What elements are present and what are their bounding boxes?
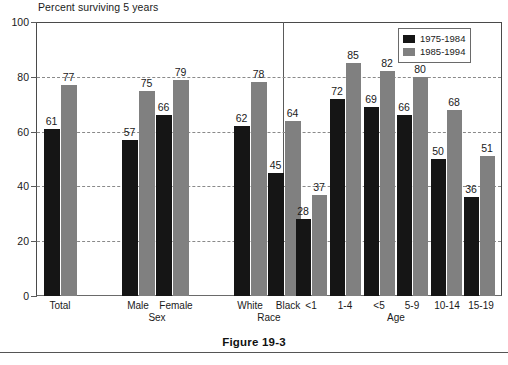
bar-10-14-1975-1984 <box>431 159 446 296</box>
bar-value-15-19-1975-1984: 36 <box>465 183 477 195</box>
bar-value-<5-1975-1984: 69 <box>365 93 377 105</box>
bar-White-1975-1984 <box>234 126 250 296</box>
bar-value-<1-1985-1994: 37 <box>313 181 325 193</box>
bar-value-Black-1975-1984: 45 <box>270 159 282 171</box>
x-tick-label-White: White <box>237 300 263 311</box>
bar-<1-1985-1994 <box>312 195 327 296</box>
legend: 1975-1984 1985-1994 <box>398 28 471 63</box>
legend-item-1975-1984: 1975-1984 <box>403 33 465 45</box>
x-tick-label-<5: <5 <box>373 300 384 311</box>
bar-value-White-1975-1984: 62 <box>236 112 248 124</box>
x-tick-label-15-19: 15-19 <box>468 300 494 311</box>
bar-Female-1975-1984 <box>156 115 172 296</box>
bar-value-10-14-1975-1984: 50 <box>432 145 444 157</box>
bar-value-Male-1985-1994: 75 <box>141 77 153 89</box>
bar-15-19-1985-1994 <box>480 156 495 296</box>
x-tick-label-10-14: 10-14 <box>434 300 460 311</box>
bar-Female-1985-1994 <box>173 80 189 296</box>
bar-value-Total-1985-1994: 77 <box>63 71 75 83</box>
bar-value-Male-1975-1984: 57 <box>124 126 136 138</box>
bar-value-1-4-1985-1994: 85 <box>347 49 359 61</box>
bar-value-Female-1985-1994: 79 <box>175 66 187 78</box>
bar-Total-1975-1984 <box>44 129 60 296</box>
legend-swatch-icon-dark <box>403 35 415 43</box>
group-label-age: Age <box>387 312 405 323</box>
bar-value-<1-1975-1984: 28 <box>297 205 309 217</box>
bar-value-10-14-1985-1994: 68 <box>448 96 460 108</box>
bar-value-15-19-1985-1994: 51 <box>481 142 493 154</box>
x-tick-label-Female: Female <box>159 300 192 311</box>
bar-value-Black-1985-1994: 64 <box>287 107 299 119</box>
bar-1-4-1975-1984 <box>330 99 345 296</box>
figure-root: Percent surviving 5 years 020406080100 6… <box>0 0 508 365</box>
bar-Male-1975-1984 <box>122 140 138 296</box>
bar-5-9-1985-1994 <box>413 77 428 296</box>
bar-5-9-1975-1984 <box>397 115 412 296</box>
bar-Total-1985-1994 <box>61 85 77 296</box>
bar-<1-1975-1984 <box>296 219 311 296</box>
bar-White-1985-1994 <box>251 82 267 296</box>
bar-value-5-9-1975-1984: 66 <box>398 101 410 113</box>
bar-<5-1975-1984 <box>364 107 379 296</box>
x-tick-label-Black: Black <box>276 300 300 311</box>
x-tick-label-<1: <1 <box>305 300 316 311</box>
bar-15-19-1975-1984 <box>464 197 479 296</box>
bar-Black-1975-1984 <box>268 173 284 296</box>
group-label-sex: Sex <box>148 312 165 323</box>
x-tick-label-5-9: 5-9 <box>405 300 419 311</box>
bar-value-White-1985-1994: 78 <box>253 68 265 80</box>
bar-value-Female-1975-1984: 66 <box>158 101 170 113</box>
bar-value-<5-1985-1994: 82 <box>381 57 393 69</box>
bar-value-Total-1975-1984: 61 <box>46 115 58 127</box>
bar-1-4-1985-1994 <box>346 63 361 296</box>
x-tick-label-Total: Total <box>49 300 70 311</box>
legend-label-1975-1984: 1975-1984 <box>420 34 465 44</box>
bar-value-1-4-1975-1984: 72 <box>331 85 343 97</box>
x-tick-label-1-4: 1-4 <box>338 300 352 311</box>
legend-swatch-icon-light <box>403 48 415 56</box>
figure-caption: Figure 19-3 <box>0 336 508 348</box>
bar-value-5-9-1985-1994: 80 <box>414 63 426 75</box>
bar-10-14-1985-1994 <box>447 110 462 296</box>
legend-label-1985-1994: 1985-1994 <box>420 47 465 57</box>
caption-divider <box>0 352 508 353</box>
bar-Male-1985-1994 <box>139 91 155 297</box>
bar-<5-1985-1994 <box>380 71 395 296</box>
group-label-race: Race <box>257 312 280 323</box>
x-tick-label-Male: Male <box>127 300 149 311</box>
legend-item-1985-1994: 1985-1994 <box>403 46 465 58</box>
